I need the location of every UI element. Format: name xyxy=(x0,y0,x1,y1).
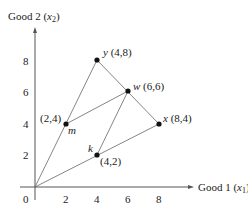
point-y xyxy=(94,57,99,62)
point-k xyxy=(94,152,99,157)
point-x-label: x (8,4) xyxy=(162,112,192,125)
x-axis-arrow-icon xyxy=(188,185,194,189)
y-tick-8: 8 xyxy=(23,55,29,67)
point-w-label: w (6,6) xyxy=(133,80,165,93)
point-m-coords: (2,4) xyxy=(40,112,61,125)
point-y-label: y (4,8) xyxy=(102,46,132,59)
x-tick-4: 4 xyxy=(94,193,100,205)
point-k-name: k xyxy=(88,142,94,154)
x-tick-2: 2 xyxy=(63,193,69,205)
x-tick-8: 8 xyxy=(156,193,162,205)
bundle-diagram: Good 2 (x2) Good 1 (x1) 0 2 4 6 8 2 4 6 … xyxy=(0,0,248,212)
y-tick-2: 2 xyxy=(23,149,29,161)
origin-label: 0 xyxy=(23,193,29,205)
segment-k-w xyxy=(97,91,128,155)
y-axis-arrow-icon xyxy=(33,27,37,33)
y-axis-label: Good 2 (x2) xyxy=(8,10,60,24)
point-k-coords: (4,2) xyxy=(100,155,121,168)
point-x xyxy=(156,121,161,126)
y-tick-6: 6 xyxy=(23,86,29,98)
x-tick-6: 6 xyxy=(125,193,131,205)
point-w xyxy=(125,88,130,93)
y-tick-4: 4 xyxy=(23,118,29,130)
x-axis-label: Good 1 (x1) xyxy=(198,181,248,195)
segment-m-w xyxy=(66,91,128,124)
point-m-name: m xyxy=(68,124,76,136)
